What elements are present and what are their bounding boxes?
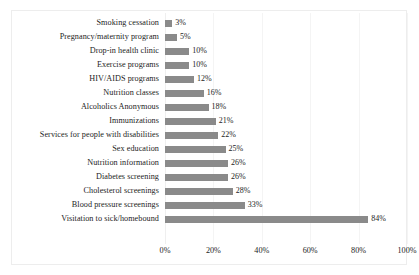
bar[interactable]	[165, 160, 228, 167]
bar-value-label: 16%	[204, 86, 222, 100]
bar-track: 18%	[165, 100, 406, 114]
x-axis-tick-label: 100%	[397, 244, 416, 258]
bar-value-label: 18%	[209, 100, 227, 114]
category-label: Alcoholics Anonymous	[12, 100, 164, 114]
bar-track: 33%	[165, 198, 406, 212]
bar-track: 26%	[165, 156, 406, 170]
bar-track: 10%	[165, 44, 406, 58]
bar-track: 12%	[165, 72, 406, 86]
bar-track: 22%	[165, 128, 406, 142]
chart-row: Services for people with disabilities22%	[12, 128, 406, 142]
x-axis-tick-label: 40%	[254, 244, 269, 258]
bar-value-label: 26%	[228, 170, 246, 184]
chart-row: Cholesterol screenings28%	[12, 184, 406, 198]
bar[interactable]	[165, 76, 194, 83]
bar[interactable]	[165, 216, 368, 223]
bar-track: 26%	[165, 170, 406, 184]
bar-value-label: 12%	[194, 72, 212, 86]
bar[interactable]	[165, 90, 204, 97]
bar-value-label: 3%	[172, 16, 186, 30]
bar-track: 21%	[165, 114, 406, 128]
bar-value-label: 84%	[368, 212, 386, 226]
chart-row: Alcoholics Anonymous18%	[12, 100, 406, 114]
category-label: Nutrition classes	[12, 86, 164, 100]
chart-row: Exercise programs10%	[12, 58, 406, 72]
bar-value-label: 25%	[226, 142, 244, 156]
chart-row: Drop-in health clinic10%	[12, 44, 406, 58]
bar[interactable]	[165, 62, 189, 69]
category-label: Nutrition information	[12, 156, 164, 170]
bar-value-label: 5%	[177, 30, 191, 44]
bar-track: 28%	[165, 184, 406, 198]
bar-track: 10%	[165, 58, 406, 72]
bar-track: 84%	[165, 212, 406, 226]
x-axis: 0%20%40%60%80%100%	[165, 244, 406, 258]
bar-value-label: 10%	[189, 44, 207, 58]
category-label: Exercise programs	[12, 58, 164, 72]
bar[interactable]	[165, 146, 226, 153]
chart-row: Nutrition classes16%	[12, 86, 406, 100]
category-label: Drop-in health clinic	[12, 44, 164, 58]
bar[interactable]	[165, 174, 228, 181]
x-axis-tick-label: 0%	[160, 244, 171, 258]
bar-track: 3%	[165, 16, 406, 30]
chart-row: Smoking cessation3%	[12, 16, 406, 30]
chart-row: HIV/AIDS programs12%	[12, 72, 406, 86]
x-axis-tick-label: 20%	[206, 244, 221, 258]
category-label: HIV/AIDS programs	[12, 72, 164, 86]
bar-value-label: 21%	[216, 114, 234, 128]
x-axis-tick-label: 80%	[351, 244, 366, 258]
bar-track: 25%	[165, 142, 406, 156]
category-label: Diabetes screening	[12, 170, 164, 184]
bar-value-label: 22%	[218, 128, 236, 142]
category-label: Services for people with disabilities	[12, 128, 164, 142]
bar-track: 5%	[165, 30, 406, 44]
bar[interactable]	[165, 132, 218, 139]
chart-plot-area: Smoking cessation3%Pregnancy/maternity p…	[12, 16, 406, 226]
chart-row: Immunizations21%	[12, 114, 406, 128]
bar[interactable]	[165, 188, 233, 195]
bar[interactable]	[165, 20, 172, 27]
category-label: Cholesterol screenings	[12, 184, 164, 198]
chart-row: Visitation to sick/homebound84%	[12, 212, 406, 226]
bar[interactable]	[165, 104, 209, 111]
bar[interactable]	[165, 202, 245, 209]
chart-row: Diabetes screening26%	[12, 170, 406, 184]
category-label: Visitation to sick/homebound	[12, 212, 164, 226]
bar-track: 16%	[165, 86, 406, 100]
chart-row: Blood pressure screenings33%	[12, 198, 406, 212]
bar-value-label: 26%	[228, 156, 246, 170]
chart-frame: Smoking cessation3%Pregnancy/maternity p…	[11, 10, 407, 265]
category-label: Immunizations	[12, 114, 164, 128]
category-label: Smoking cessation	[12, 16, 164, 30]
bar[interactable]	[165, 34, 177, 41]
chart-row: Pregnancy/maternity program5%	[12, 30, 406, 44]
category-label: Sex education	[12, 142, 164, 156]
bar[interactable]	[165, 48, 189, 55]
bar-value-label: 33%	[245, 198, 263, 212]
bar-value-label: 10%	[189, 58, 207, 72]
category-label: Blood pressure screenings	[12, 198, 164, 212]
chart-row: Sex education25%	[12, 142, 406, 156]
gridline-100	[407, 13, 408, 244]
x-axis-tick-label: 60%	[303, 244, 318, 258]
chart-row: Nutrition information26%	[12, 156, 406, 170]
category-label: Pregnancy/maternity program	[12, 30, 164, 44]
bar-value-label: 28%	[233, 184, 251, 198]
bar[interactable]	[165, 118, 216, 125]
